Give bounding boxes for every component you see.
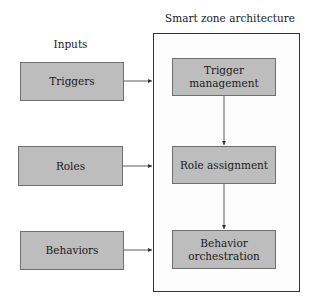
connector-arrows bbox=[0, 0, 316, 302]
